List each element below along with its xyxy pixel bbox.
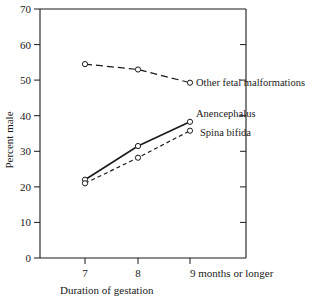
y-tick-label-30: 30 [20,145,32,157]
series-spina-bifida [82,128,192,186]
data-point-marker [187,119,192,124]
chart-container: 0 10 20 30 40 50 60 70 7 8 9 months or l… [0,0,321,303]
y-tick-marks [34,9,40,258]
y-tick-label-10: 10 [20,216,32,228]
x-axis-title: Duration of gestation [60,284,154,296]
x-tick-marks [85,258,190,264]
x-tick-label-9-months: 9 months or longer [190,267,274,279]
x-tick-label-7: 7 [82,267,88,279]
series-label-other-fetal-malformations: Other fetal malformations [196,77,305,88]
y-tick-label-50: 50 [20,74,32,86]
y-axis-title: Percent male [3,111,15,168]
y-tick-label-60: 60 [20,39,32,51]
series-label-spina-bifida: Spina bifida [200,127,251,138]
y-tick-labels: 0 10 20 30 40 50 60 70 [20,3,32,264]
series-label-anencephalus: Anencephalus [196,108,255,119]
y-tick-label-20: 20 [20,181,32,193]
line-chart: 0 10 20 30 40 50 60 70 7 8 9 months or l… [0,0,321,303]
y-tick-label-0: 0 [26,252,32,264]
data-point-marker [135,155,140,160]
data-point-marker [82,62,87,67]
data-point-marker [187,80,192,85]
data-point-marker [135,143,140,148]
data-point-marker [187,128,192,133]
x-tick-label-8: 8 [135,267,141,279]
data-point-marker [135,67,140,72]
x-tick-labels: 7 8 9 months or longer [82,267,273,279]
data-point-marker [82,181,87,186]
series-line-anencephalus [85,122,190,180]
y-tick-label-70: 70 [20,3,32,15]
y-tick-label-40: 40 [20,110,32,122]
series-other-fetal-malformations [82,62,192,86]
series-anencephalus [82,119,192,182]
